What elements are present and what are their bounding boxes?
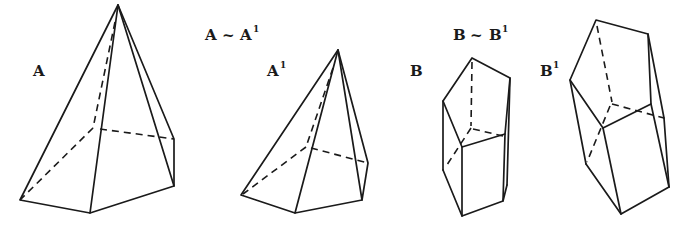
pyramid-a xyxy=(20,5,174,213)
prism-b-top-face xyxy=(443,58,510,147)
pyramid-a1-visible-edges xyxy=(241,50,368,213)
prism-b-hidden-bottom-left xyxy=(445,128,471,168)
solid-label-a1: A 1 xyxy=(266,60,286,80)
relation-b-right: B xyxy=(489,26,502,44)
prism-b xyxy=(443,58,510,216)
relation-b-similar-b1: B ~ B 1 xyxy=(453,24,508,44)
pyramid-a-hidden-base-left xyxy=(20,128,93,200)
prism-b-hidden-bottom-right xyxy=(473,129,503,136)
solid-label-a1-sup: 1 xyxy=(280,60,286,70)
relation-b-left: B xyxy=(453,26,466,44)
solid-label-b1-sup: 1 xyxy=(553,60,559,70)
prism-b1-hidden-bottom-right xyxy=(612,104,664,118)
prism-b-hidden-vertical xyxy=(471,62,472,126)
pyramid-a1 xyxy=(241,50,368,213)
pyramid-a1-hidden-base-left xyxy=(243,147,306,194)
similar-solids-figure: A ~ A 1 B ~ B 1 A A 1 B B 1 xyxy=(0,0,691,228)
solid-label-b: B xyxy=(410,62,423,80)
solid-label-b1-base: B xyxy=(540,62,553,80)
pyramid-a-right-edge xyxy=(118,5,174,186)
pyramid-a1-hidden-edge xyxy=(306,68,333,147)
pyramid-a-front-edge xyxy=(90,5,118,213)
relation-a-similar-a1: A ~ A 1 xyxy=(204,24,259,44)
prism-b1-bottom-edges xyxy=(586,164,669,214)
prism-b1-hidden-bottom-left xyxy=(587,106,610,162)
solid-label-a: A xyxy=(32,62,45,80)
pyramid-a1-hidden-base-right xyxy=(311,148,368,163)
relation-b-right-sup: 1 xyxy=(502,24,508,34)
pyramid-a-hidden-base-right xyxy=(100,129,174,139)
solid-label-b1: B 1 xyxy=(540,60,559,80)
prism-b-bottom-edges xyxy=(443,170,507,216)
relation-a-right-sup: 1 xyxy=(253,24,259,34)
relation-a-symbol: ~ xyxy=(222,26,235,44)
prism-b1 xyxy=(570,20,669,214)
relation-b-symbol: ~ xyxy=(470,26,483,44)
solid-label-a1-base: A xyxy=(266,62,279,80)
relation-a-right: A xyxy=(239,26,252,44)
prism-b1-hidden-vertical xyxy=(597,26,612,102)
relation-a-left: A xyxy=(204,26,217,44)
